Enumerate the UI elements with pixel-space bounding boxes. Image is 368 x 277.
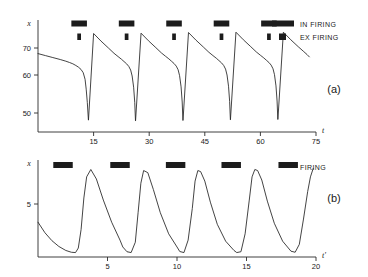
panel-b-firing-bars — [53, 162, 298, 168]
firing-bar — [53, 162, 72, 168]
legend-in-firing-marker-icon — [272, 21, 294, 27]
panel-a-in-firing-bars — [71, 21, 276, 27]
panel-b-ytick-5: 5 — [27, 200, 31, 209]
firing-bar — [125, 34, 129, 41]
panel-b-xtick-10: 10 — [173, 262, 181, 271]
panel-b-x-axis-label: t' — [322, 251, 326, 260]
panel-b-x-ticks: 5 10 15 20 — [105, 257, 320, 271]
panel-b-curve — [38, 168, 313, 252]
panel-a-ytick-70: 70 — [23, 44, 31, 53]
panel-a-xtick-45: 45 — [201, 137, 209, 146]
panel-b-y-ticks: 5 — [27, 200, 38, 209]
firing-bar — [77, 34, 81, 41]
panel-a-label: (a) — [327, 83, 340, 95]
firing-bar — [267, 34, 271, 41]
firing-bar — [166, 162, 185, 168]
legend-ex-firing-label: EX FIRING — [300, 34, 339, 41]
firing-bar — [221, 162, 240, 168]
firing-bar — [166, 21, 182, 27]
panel-b-xtick-15: 15 — [242, 262, 250, 271]
panel-b-y-axis-label: x — [26, 159, 31, 168]
panel-b-label: (b) — [327, 192, 340, 204]
panel-a-xtick-75: 75 — [312, 137, 320, 146]
panel-a-xtick-30: 30 — [145, 137, 153, 146]
panel-b-xtick-5: 5 — [105, 262, 109, 271]
panel-a-ytick-60: 60 — [23, 71, 31, 80]
firing-bar — [220, 34, 224, 41]
firing-bar — [172, 34, 176, 41]
firing-bar — [110, 162, 129, 168]
panel-a: 70 60 50 15 30 45 60 75 x t IN FIRING — [23, 19, 341, 146]
panel-a-ex-firing-bars — [77, 34, 270, 41]
firing-bar — [119, 21, 135, 27]
firing-bar — [278, 162, 297, 168]
legend-in-firing-label: IN FIRING — [300, 21, 336, 28]
figure-root: 70 60 50 15 30 45 60 75 x t IN FIRING — [0, 0, 368, 277]
legend-ex-firing-marker-icon — [279, 34, 286, 41]
legend-firing-label: FIRING — [300, 164, 326, 171]
panel-a-ytick-50: 50 — [23, 109, 31, 118]
panel-a-y-axis-label: x — [26, 19, 31, 28]
firing-bar — [214, 21, 230, 27]
panel-a-xtick-15: 15 — [89, 137, 97, 146]
panel-a-y-ticks: 70 60 50 — [23, 44, 38, 118]
firing-bar — [71, 21, 87, 27]
panel-b-xtick-20: 20 — [312, 262, 320, 271]
panel-a-xtick-60: 60 — [256, 137, 264, 146]
panel-a-x-ticks: 15 30 45 60 75 — [89, 132, 320, 146]
panel-a-curve — [38, 32, 309, 121]
panel-b: 5 5 10 15 20 x t' FIRING (b) — [26, 159, 341, 271]
panel-a-legend: IN FIRING EX FIRING — [272, 21, 339, 41]
panel-a-x-axis-label: t — [322, 126, 325, 135]
